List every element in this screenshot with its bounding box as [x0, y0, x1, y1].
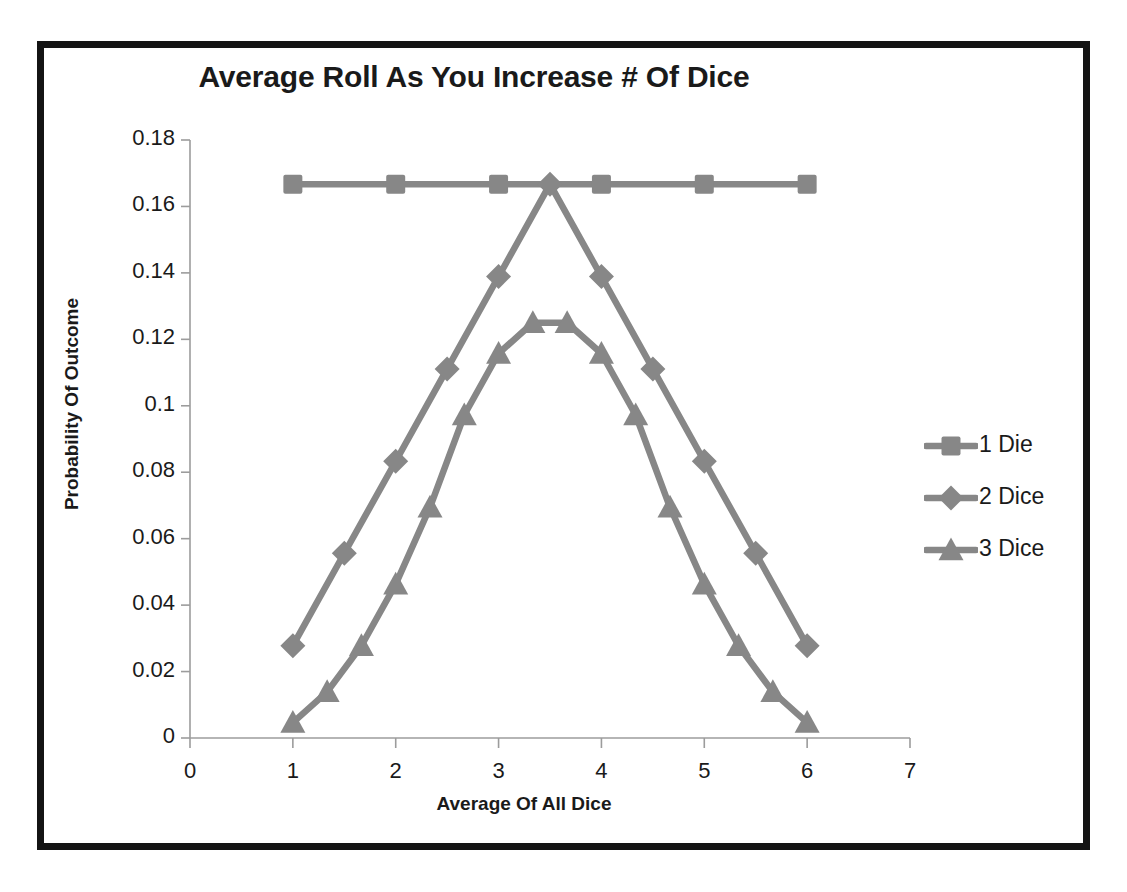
marker-square [695, 175, 714, 194]
marker-diamond [640, 356, 665, 381]
chart-page: Average Roll As You Increase # Of Dice P… [0, 0, 1127, 892]
legend-marker-triangle-icon [924, 536, 978, 560]
marker-square [283, 175, 302, 194]
marker-square [592, 175, 611, 194]
y-tick-label: 0.16 [55, 191, 175, 217]
marker-triangle [658, 495, 683, 518]
x-tick-label: 6 [767, 758, 847, 784]
legend-label: 2 Dice [979, 483, 1044, 510]
marker-diamond [795, 633, 820, 658]
marker-diamond [692, 449, 717, 474]
x-tick-label: 0 [150, 758, 230, 784]
marker-square [798, 175, 817, 194]
marker-square [942, 437, 961, 456]
legend-item-2-dice[interactable]: 2 Dice [924, 470, 1089, 522]
axes-layer [181, 140, 910, 748]
x-tick-label: 7 [870, 758, 950, 784]
marker-diamond [743, 541, 768, 566]
marker-triangle [383, 572, 408, 595]
y-tick-label: 0.08 [55, 457, 175, 483]
y-tick-label: 0.06 [55, 524, 175, 550]
marker-diamond [332, 541, 357, 566]
series-line [293, 323, 807, 723]
chart-frame-border: Average Roll As You Increase # Of Dice P… [37, 41, 1090, 850]
marker-diamond [280, 633, 305, 658]
x-tick-label: 5 [664, 758, 744, 784]
legend-label: 3 Dice [979, 535, 1044, 562]
y-tick-label: 0.1 [55, 391, 175, 417]
series-2-dice [280, 172, 819, 658]
y-tick-label: 0.02 [55, 657, 175, 683]
marker-diamond [383, 449, 408, 474]
marker-triangle [417, 495, 442, 518]
marker-diamond [538, 172, 563, 197]
legend-marker-square-icon [924, 432, 978, 456]
legend-item-1-die[interactable]: 1 Die [924, 418, 1089, 470]
y-tick-label: 0.04 [55, 590, 175, 616]
x-tick-label: 4 [561, 758, 641, 784]
y-tick-label: 0.18 [55, 125, 175, 151]
x-tick-label: 1 [253, 758, 333, 784]
series-layer [280, 172, 819, 733]
legend-item-3-dice[interactable]: 3 Dice [924, 522, 1089, 574]
marker-diamond [486, 264, 511, 289]
marker-square [489, 175, 508, 194]
marker-diamond [589, 264, 614, 289]
marker-diamond [435, 356, 460, 381]
legend-marker-diamond-icon [924, 484, 978, 508]
marker-square [386, 175, 405, 194]
marker-diamond [939, 486, 964, 511]
x-tick-label: 3 [459, 758, 539, 784]
y-tick-label: 0.12 [55, 324, 175, 350]
y-tick-label: 0 [55, 723, 175, 749]
marker-triangle [692, 572, 717, 595]
y-tick-label: 0.14 [55, 258, 175, 284]
chart-legend: 1 Die2 Dice3 Dice [924, 418, 1089, 574]
legend-label: 1 Die [979, 431, 1033, 458]
series-line [293, 184, 807, 645]
chart-inner: Average Roll As You Increase # Of Dice P… [44, 48, 1083, 843]
x-tick-label: 2 [356, 758, 436, 784]
